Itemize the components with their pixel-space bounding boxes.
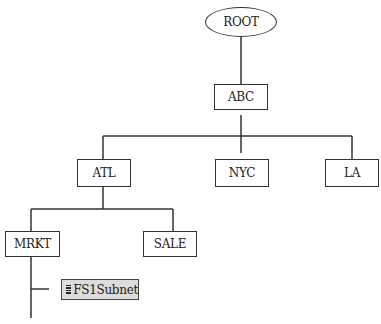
connector-lines bbox=[0, 0, 381, 324]
nyc-label: NYC bbox=[229, 166, 256, 180]
fs1subnet-node[interactable]: FS1Subnet bbox=[61, 279, 139, 300]
mrkt-label: MRKT bbox=[14, 237, 51, 251]
atl-node[interactable]: ATL bbox=[77, 159, 131, 187]
mrkt-node[interactable]: MRKT bbox=[5, 231, 60, 257]
sale-label: SALE bbox=[154, 237, 186, 251]
abc-label: ABC bbox=[228, 90, 254, 104]
root-label: ROOT bbox=[223, 15, 259, 29]
sale-node[interactable]: SALE bbox=[143, 231, 197, 257]
la-node[interactable]: LA bbox=[325, 159, 379, 187]
atl-label: ATL bbox=[92, 166, 115, 180]
abc-node[interactable]: ABC bbox=[214, 84, 268, 110]
list-icon bbox=[66, 285, 71, 294]
fs1subnet-label: FS1Subnet bbox=[73, 283, 138, 297]
nyc-node[interactable]: NYC bbox=[215, 159, 269, 187]
root-node[interactable]: ROOT bbox=[205, 7, 277, 37]
la-label: LA bbox=[344, 166, 360, 180]
